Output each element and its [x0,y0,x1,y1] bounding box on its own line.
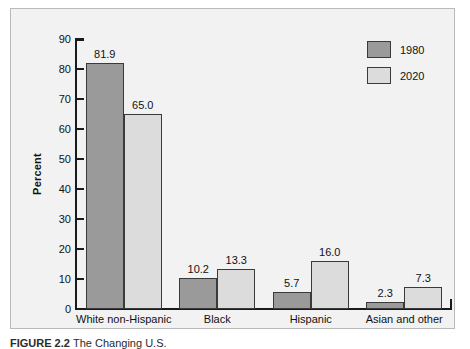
bar-value-label: 2.3 [378,287,393,299]
bar-value-label: 5.7 [284,277,299,289]
x-axis-end-cap [450,299,452,310]
figure-caption: FIGURE 2.2 The Changing U.S. [10,338,310,349]
y-axis-tick [75,188,84,190]
bar-2020-hispanic[interactable] [311,261,349,309]
y-axis-line [75,39,77,310]
figure-caption-prefix: FIGURE 2.2 [10,338,70,349]
y-axis-title: Percent [31,153,43,195]
y-axis-tick [75,158,84,160]
y-axis-tick [75,278,84,280]
y-axis-tick [75,128,84,130]
bar-1980-white-non-hispanic[interactable] [86,63,124,309]
legend-label: 1980 [400,44,424,56]
bar-value-label: 10.2 [188,263,209,275]
y-axis-tick-label: 30 [59,213,71,225]
x-axis-category-label: Asian and other [366,313,443,325]
y-axis-tick-label: 80 [59,63,71,75]
bar-2020-asian-and-other[interactable] [404,287,442,309]
y-axis-tick-label: 40 [59,183,71,195]
y-axis-tick [75,68,84,70]
y-axis-tick [75,308,84,310]
y-axis-tick [75,248,84,250]
figure-panel: Percent 0102030405060708090 81.965.010.2… [10,8,455,329]
figure-caption-text: The Changing U.S. [73,338,167,349]
bar-value-label: 7.3 [416,272,431,284]
y-axis-tick-label: 90 [59,33,71,45]
bar-2020-white-non-hispanic[interactable] [124,114,162,309]
bar-1980-black[interactable] [179,278,217,309]
legend-swatch-icon [367,67,391,84]
bar-value-label: 16.0 [319,246,340,258]
y-axis-tick-label: 60 [59,123,71,135]
y-axis-tick [75,38,84,40]
y-axis-tick [75,98,84,100]
x-axis-category-label: Black [204,313,231,325]
bar-2020-black[interactable] [217,269,255,309]
bar-1980-asian-and-other[interactable] [366,302,404,309]
y-axis-tick-label: 20 [59,243,71,255]
y-axis-tick [75,218,84,220]
chart-legend: 19802020 [367,41,424,84]
legend-item-2020[interactable]: 2020 [367,67,424,84]
bar-value-label: 81.9 [94,48,115,60]
bar-1980-hispanic[interactable] [273,292,311,309]
y-axis-tick-label: 50 [59,153,71,165]
y-axis-tick-label: 70 [59,93,71,105]
y-axis-tick-label: 10 [59,273,71,285]
bar-value-label: 65.0 [132,99,153,111]
legend-swatch-icon [367,41,391,58]
y-axis-tick-label: 0 [65,303,71,315]
legend-item-1980[interactable]: 1980 [367,41,424,58]
bar-chart-plot-area: Percent 0102030405060708090 81.965.010.2… [11,9,454,328]
legend-label: 2020 [400,70,424,82]
bar-value-label: 13.3 [226,254,247,266]
x-axis-category-label: White non-Hispanic [76,313,171,325]
x-axis-category-label: Hispanic [290,313,332,325]
